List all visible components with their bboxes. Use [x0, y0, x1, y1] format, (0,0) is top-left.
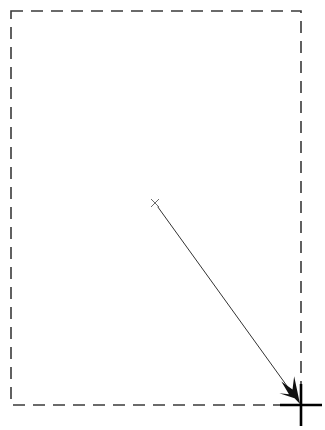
annotation-overlay	[0, 0, 325, 430]
screenshot-canvas	[0, 0, 325, 430]
canvas-background	[0, 0, 325, 430]
